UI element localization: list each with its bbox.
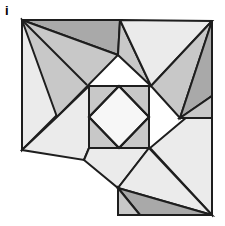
figure-root: i: [0, 0, 225, 226]
geometric-figure: [0, 0, 225, 226]
